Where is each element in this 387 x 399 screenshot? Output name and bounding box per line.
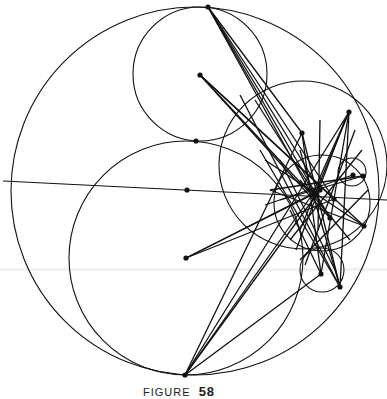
segment: [208, 7, 330, 218]
caption-prefix: FIGURE: [143, 386, 191, 398]
hub-point-2: [317, 187, 322, 192]
segment: [185, 274, 321, 375]
tangent-point: [193, 138, 198, 143]
right-point-d: [360, 173, 365, 178]
right-point-b: [299, 130, 304, 135]
figure-caption: FIGURE 58: [143, 384, 215, 399]
right-point-h: [318, 271, 323, 276]
hub-point: [309, 192, 314, 197]
lower-center-point: [183, 255, 188, 260]
segment: [185, 112, 349, 375]
segment: [208, 7, 302, 133]
right-point-e: [331, 196, 336, 201]
right-point-f: [327, 215, 332, 220]
right-point-g: [361, 223, 366, 228]
top-point: [205, 4, 210, 9]
bottom-point: [182, 372, 187, 377]
right-point-c: [350, 172, 355, 177]
right-point-a: [346, 109, 351, 114]
right-point-i: [337, 284, 342, 289]
segment: [200, 75, 364, 226]
upper-center-point: [197, 72, 202, 77]
caption-number: 58: [199, 384, 215, 399]
center-point: [184, 187, 189, 192]
